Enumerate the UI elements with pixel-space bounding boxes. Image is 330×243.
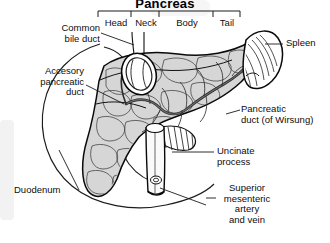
region-label-neck: Neck (131, 17, 161, 28)
leader-superior-mesenteric (160, 188, 206, 205)
label-uncinate-process: Uncinate process (217, 146, 287, 167)
leader-common-bile-duct (101, 33, 134, 45)
region-label-head: Head (101, 17, 131, 28)
leader-pancreatic-duct (226, 110, 240, 114)
spleen (242, 31, 283, 90)
label-accessory-pancreatic-duct: Accesory pancreatic duct (4, 66, 84, 98)
region-label-body: Body (172, 17, 202, 28)
figure-title: Pancreas (0, 0, 330, 11)
label-superior-mesenteric: Superior mesenteric artery and vein (208, 183, 286, 225)
label-duodenum: Duodenum (14, 185, 84, 196)
label-common-bile-duct: Common bile duct (20, 23, 100, 44)
pancreas-gland (83, 42, 253, 196)
superior-mesenteric-vessels (146, 124, 165, 196)
figure-canvas: Pancreas Head Neck Body Tail Common bile… (0, 0, 330, 243)
region-label-tail: Tail (213, 17, 241, 28)
label-spleen: Spleen (286, 38, 330, 49)
label-pancreatic-duct: Pancreatic duct (of Wirsung) (241, 104, 330, 125)
